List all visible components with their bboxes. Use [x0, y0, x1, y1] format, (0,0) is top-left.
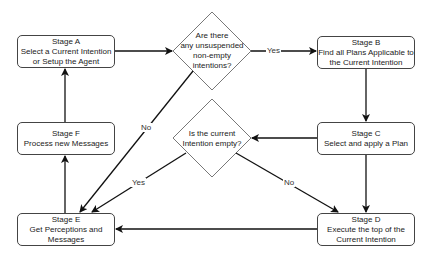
decision-1-line4: intentions?: [173, 61, 251, 71]
stage-a-line2: or Setup the Agent: [33, 57, 99, 67]
stage-b-line2: the Current Intention: [330, 58, 403, 68]
stage-c-line1: Select and apply a Plan: [324, 139, 408, 149]
decision-2-text: Is the current Intention empty?: [173, 129, 251, 149]
decision-1-line1: Are there: [173, 31, 251, 41]
stage-c-box: Stage C Select and apply a Plan: [317, 122, 415, 155]
stage-f-title: Stage F: [52, 129, 80, 139]
decision-2-line2: Intention empty?: [173, 139, 251, 149]
stage-c-title: Stage C: [352, 129, 381, 139]
stage-a-box: Stage A Select a Current Intention or Se…: [17, 35, 115, 68]
stage-d-line1: Execute the top of the: [327, 225, 405, 235]
stage-e-line2: Messages: [48, 235, 84, 245]
stage-f-box: Stage F Process new Messages: [17, 122, 115, 155]
stage-f-line1: Process new Messages: [24, 139, 108, 149]
decision-1-text: Are there any unsuspended non-empty inte…: [173, 31, 251, 71]
stage-b-box: Stage B Find all Plans Applicable to the…: [317, 36, 415, 69]
edge-label-no-decision1: No: [140, 123, 152, 132]
edge-label-no-decision2: No: [283, 178, 295, 187]
stage-d-line2: Current Intention: [336, 235, 396, 245]
decision-2-line1: Is the current: [173, 129, 251, 139]
stage-b-title: Stage B: [352, 38, 380, 48]
stage-e-box: Stage E Get Perceptions and Messages: [17, 213, 115, 246]
stage-d-box: Stage D Execute the top of the Current I…: [317, 213, 415, 246]
edge-label-yes-decision2: Yes: [131, 178, 146, 187]
stage-b-line1: Find all Plans Applicable to: [318, 48, 414, 58]
stage-a-title: Stage A: [52, 37, 80, 47]
stage-e-line1: Get Perceptions and: [30, 225, 103, 235]
stage-d-title: Stage D: [352, 215, 381, 225]
decision-1-line2: any unsuspended: [173, 41, 251, 51]
decision-1-line3: non-empty: [173, 51, 251, 61]
stage-a-line1: Select a Current Intention: [21, 47, 112, 57]
edge-label-yes-decision1: Yes: [266, 46, 281, 55]
stage-e-title: Stage E: [52, 215, 80, 225]
